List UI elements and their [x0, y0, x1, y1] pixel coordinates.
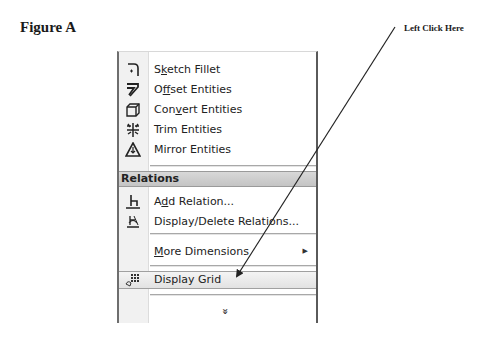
menu-item-sketch-fillet[interactable]: Sketch Fillet	[119, 60, 316, 80]
menu-separator	[150, 165, 316, 167]
display-delete-relations-icon	[124, 214, 142, 230]
mirror-entities-icon	[124, 142, 142, 158]
offset-entities-icon	[124, 82, 142, 98]
menu-item-display-delete-relations[interactable]: Display/Delete Relations...	[119, 212, 316, 232]
display-grid-icon	[124, 272, 142, 288]
submenu-arrow-icon: ▶	[303, 247, 308, 255]
callout-label: Left Click Here	[404, 23, 464, 33]
trim-entities-icon	[124, 122, 142, 138]
context-menu: Sketch Fillet Offset Entities Convert En…	[117, 51, 318, 323]
menu-item-more-dimensions[interactable]: More Dimensions ▶	[119, 242, 316, 262]
sketch-fillet-icon	[124, 62, 142, 78]
add-relation-icon	[124, 194, 142, 210]
menu-item-mirror-entities[interactable]: Mirror Entities	[119, 140, 316, 160]
menu-separator	[150, 265, 316, 267]
menu-separator	[150, 233, 316, 235]
menu-item-display-grid[interactable]: Display Grid	[119, 271, 316, 289]
menu-separator	[150, 294, 316, 296]
menu-item-add-relation[interactable]: Add Relation...	[119, 192, 316, 212]
menu-item-offset-entities[interactable]: Offset Entities	[119, 80, 316, 100]
menu-item-convert-entities[interactable]: Convert Entities	[119, 100, 316, 120]
figure-title: Figure A	[20, 19, 76, 36]
section-header-relations: Relations	[119, 171, 316, 187]
menu-item-trim-entities[interactable]: Trim Entities	[119, 120, 316, 140]
convert-entities-icon	[124, 102, 142, 118]
expand-menu-chevron-icon[interactable]: »	[220, 308, 231, 314]
